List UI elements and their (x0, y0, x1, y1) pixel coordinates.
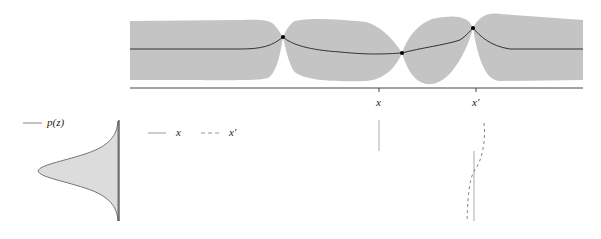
observation-point (471, 26, 475, 30)
tick-label-x-prime: x′ (472, 96, 479, 108)
observation-point (400, 51, 404, 55)
observation-point (281, 35, 285, 39)
tick-label-x: x (376, 96, 381, 108)
legend-label-x-prime: x′ (229, 126, 236, 138)
marginal-x-prime-dashed (467, 123, 485, 221)
density-curve (38, 121, 118, 221)
legend-label-x: x (176, 126, 181, 138)
legend-label-pz: p(z) (47, 116, 64, 128)
gp-diagram (0, 0, 601, 239)
